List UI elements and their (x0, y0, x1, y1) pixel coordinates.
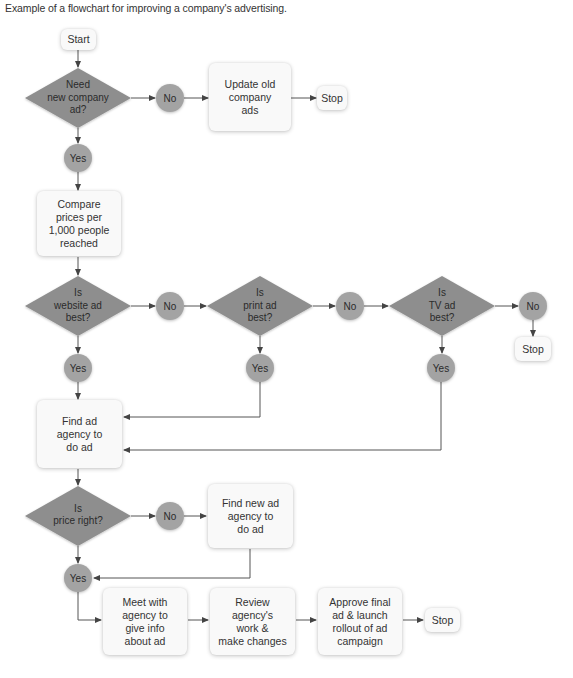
yes-connector-print: Yes (246, 354, 274, 382)
no-connector-2: No (156, 292, 184, 320)
decision-website-ad: Is website ad best? (28, 286, 128, 326)
decision-need-new-ad: Need new company ad? (28, 78, 128, 118)
yes-connector-price: Yes (64, 564, 92, 592)
no-connector-3: No (336, 292, 364, 320)
review-work-node: Review agency's work & make changes (210, 588, 295, 655)
decision-print-ad: Is print ad best? (210, 286, 310, 326)
start-node: Start (61, 29, 96, 50)
decision-tv-ad: Is TV ad best? (392, 286, 492, 326)
yes-connector-1: Yes (64, 144, 92, 172)
meet-agency-node: Meet with agency to give info about ad (103, 588, 187, 655)
find-new-ad-agency-node: Find new ad agency to do ad (208, 484, 293, 548)
stop-node-1: Stop (317, 86, 347, 110)
update-old-ads-node: Update old company ads (209, 63, 291, 131)
compare-prices-node: Compare prices per 1,000 people reached (37, 191, 121, 256)
no-connector-5: No (156, 502, 184, 530)
no-connector-4: No (519, 292, 547, 320)
stop-node-2: Stop (515, 337, 551, 361)
yes-connector-website: Yes (64, 354, 92, 382)
approve-final-node: Approve final ad & launch rollout of ad … (318, 588, 402, 655)
yes-connector-tv: Yes (427, 354, 455, 382)
no-connector-1: No (156, 84, 184, 112)
stop-node-3: Stop (425, 608, 460, 632)
find-ad-agency-node: Find ad agency to do ad (37, 400, 122, 468)
decision-price-right: Is price right? (28, 500, 128, 530)
